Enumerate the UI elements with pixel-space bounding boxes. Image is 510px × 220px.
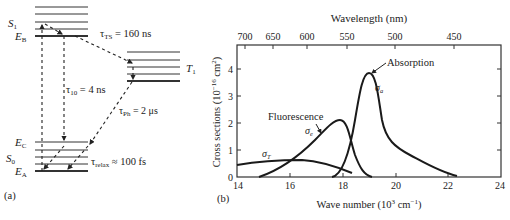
lifetime-tau-relax: τrelax ≈ 100 fs bbox=[91, 156, 146, 169]
state-label-t1: T1 bbox=[186, 62, 196, 76]
fluorescence-curve bbox=[259, 120, 372, 177]
jablonski-and-cross-section-figure: S1 EB T1 EC S0 EA τTS = 160 ns τ10 = 4 n… bbox=[0, 0, 510, 220]
sigma-e-label: σe bbox=[305, 125, 313, 137]
absorption-label: Absorption bbox=[387, 57, 435, 68]
svg-text:14: 14 bbox=[233, 180, 243, 191]
panel-label-b: (b) bbox=[217, 193, 230, 205]
s0-levels bbox=[35, 142, 88, 171]
x-axis-title: Wave number (103 cm−1) bbox=[317, 198, 422, 211]
svg-text:16: 16 bbox=[285, 180, 295, 191]
state-label-s0: S0 bbox=[6, 152, 16, 166]
svg-text:24: 24 bbox=[495, 180, 505, 191]
svg-text:700: 700 bbox=[238, 31, 253, 42]
triplet-absorption-curve bbox=[237, 160, 352, 173]
top-axis-ticks: 700 650 600 550 500 450 bbox=[238, 31, 462, 49]
svg-text:0: 0 bbox=[228, 172, 233, 183]
svg-text:22: 22 bbox=[443, 180, 453, 191]
panel-label-a: (a) bbox=[4, 190, 16, 202]
sigma-a-label: σa bbox=[375, 82, 383, 94]
svg-text:450: 450 bbox=[447, 31, 462, 42]
svg-text:650: 650 bbox=[266, 31, 281, 42]
absorption-curve bbox=[332, 73, 457, 177]
transition-arrows bbox=[42, 24, 133, 171]
panel-b-cross-section-chart: Wavelength (nm) 700 650 600 550 500 450 … bbox=[210, 12, 505, 211]
fluorescence-label: Fluorescence bbox=[268, 111, 324, 122]
state-label-s1: S1 bbox=[8, 17, 18, 31]
sigma-t-label: σT bbox=[262, 148, 271, 160]
svg-text:20: 20 bbox=[391, 180, 401, 191]
lifetime-tau-ph: τPh = 2 μs bbox=[119, 105, 158, 118]
s1-levels bbox=[35, 7, 88, 36]
panel-a-energy-diagram: S1 EB T1 EC S0 EA τTS = 160 ns τ10 = 4 n… bbox=[4, 7, 196, 202]
fluorescence-pointer bbox=[316, 124, 321, 133]
svg-text:3: 3 bbox=[228, 91, 233, 102]
energy-label-ec: EC bbox=[14, 136, 27, 150]
t1-levels bbox=[127, 52, 180, 81]
energy-label-eb: EB bbox=[14, 30, 27, 44]
y-axis-ticks: 0 1 2 3 4 bbox=[228, 64, 501, 183]
y-axis-title: Cross sections (10−16 cm2) bbox=[210, 56, 223, 167]
lifetime-tau-ts: τTS = 160 ns bbox=[100, 28, 151, 41]
lifetime-tau-10: τ10 = 4 ns bbox=[66, 84, 106, 97]
data-curves bbox=[237, 73, 457, 177]
svg-text:1: 1 bbox=[228, 145, 233, 156]
absorption-pointer bbox=[372, 63, 386, 73]
svg-text:550: 550 bbox=[340, 31, 355, 42]
energy-label-ea: EA bbox=[14, 165, 27, 179]
top-axis-title: Wavelength (nm) bbox=[331, 12, 408, 25]
svg-text:600: 600 bbox=[300, 31, 315, 42]
svg-text:500: 500 bbox=[388, 31, 403, 42]
svg-text:4: 4 bbox=[228, 64, 233, 75]
svg-text:18: 18 bbox=[338, 180, 348, 191]
svg-text:2: 2 bbox=[228, 118, 233, 129]
